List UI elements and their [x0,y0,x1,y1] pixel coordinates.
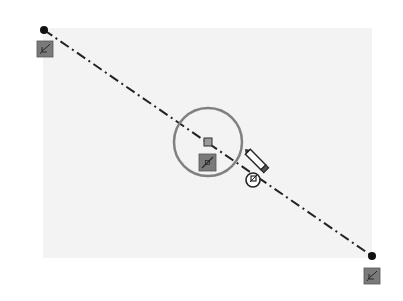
sketch-canvas[interactable] [0,0,403,301]
sketch-geometry [0,0,403,301]
midpoint-marker[interactable] [204,138,212,146]
end-endpoint[interactable] [368,252,376,260]
start-endpoint[interactable] [40,26,48,34]
midpoint-relation-icon[interactable] [199,154,216,171]
coincident-relation-icon[interactable] [364,268,380,284]
coincident-badge-icon [246,173,260,187]
coincident-relation-icon[interactable] [37,41,53,57]
